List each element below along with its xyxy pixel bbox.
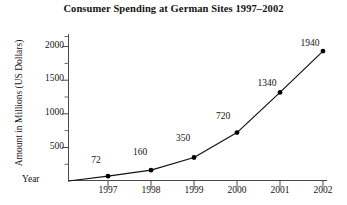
data-point-1998 (149, 168, 154, 173)
data-point-markers (106, 49, 326, 179)
x-axis (69, 181, 328, 188)
data-point-2001 (278, 90, 283, 95)
data-point-1997 (106, 174, 111, 179)
plot-area (0, 0, 347, 205)
data-point-2000 (235, 130, 240, 135)
y-axis (62, 34, 69, 181)
chart-container: Consumer Spending at German Sites 1997–2… (0, 0, 347, 205)
data-series-line (69, 51, 324, 181)
data-point-2002 (321, 49, 326, 54)
data-point-1999 (192, 155, 197, 160)
